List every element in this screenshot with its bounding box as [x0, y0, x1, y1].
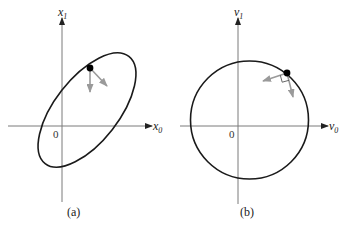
v1-axis-label: v1 [234, 5, 243, 21]
point-dot [87, 65, 94, 72]
x1-axis-label: x1 [57, 5, 67, 21]
caption-a: (a) [67, 205, 80, 219]
point-dot [284, 70, 291, 77]
caption-b: (b) [240, 205, 254, 219]
x0-axis-label: x0 [152, 119, 162, 135]
figure: x1 x0 0 (a) v1 v0 0 (b) [0, 0, 340, 228]
v0-axis-label: v0 [329, 119, 338, 135]
panel-a: x1 x0 0 (a) [8, 5, 162, 219]
origin-label: 0 [229, 128, 235, 140]
panel-b: v1 v0 0 (b) [180, 5, 338, 219]
leftward-vector-arrow [263, 73, 287, 81]
ellipse-curve [20, 37, 154, 184]
circle-curve [191, 61, 309, 179]
diagonal-vector-arrow [90, 68, 107, 86]
origin-label: 0 [53, 128, 59, 140]
